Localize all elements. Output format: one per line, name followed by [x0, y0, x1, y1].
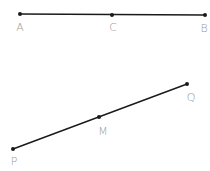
segment-pq: P M Q [11, 82, 196, 168]
point-b [203, 13, 207, 17]
point-m [97, 115, 101, 119]
point-q [185, 82, 189, 86]
segment-ab: A C B [16, 12, 207, 35]
point-a [18, 12, 22, 16]
label-c: C [109, 21, 117, 34]
label-p: P [11, 155, 18, 168]
point-p [11, 147, 15, 151]
geometry-diagram: A C B P M Q [0, 0, 210, 171]
label-b: B [200, 22, 207, 35]
label-a: A [16, 21, 24, 34]
point-c [110, 13, 114, 17]
label-q: Q [187, 91, 196, 104]
label-m: M [98, 125, 108, 138]
